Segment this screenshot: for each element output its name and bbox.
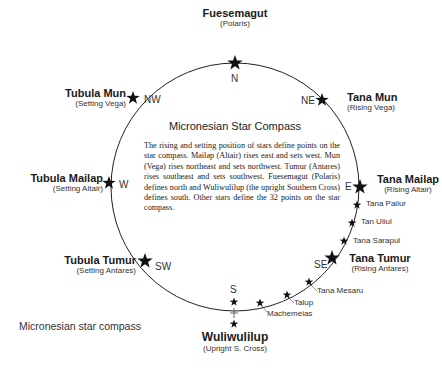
label-north: Fuesemagut (Polaris) [185, 7, 285, 28]
label-southeast: Tana Tumur (Rising Antares) [338, 252, 422, 273]
label-northwest: Tubula Mun (Setting Vega) [40, 87, 126, 108]
label-tan-uliul: Tan Uliul [361, 217, 392, 226]
star-icon-west [102, 176, 115, 189]
diagram-description: The rising and setting position of stars… [144, 141, 340, 214]
star-name-northeast: Tana Mun [347, 91, 398, 103]
direction-w: W [119, 179, 128, 190]
star-icon-northwest [126, 91, 139, 104]
direction-nw: NW [144, 94, 161, 105]
star-icon-talup [283, 291, 292, 299]
star-icon-north [227, 55, 242, 70]
star-sub-southeast: (Rising Antares) [338, 264, 422, 273]
label-southwest: Tubula Tumur (Setting Antares) [48, 254, 136, 275]
direction-sw: SW [155, 261, 171, 272]
label-tana-mesaru: Tana Mesaru [317, 286, 363, 295]
label-east: Tana Mailap (Rising Altair) [368, 173, 442, 194]
direction-se: SE [314, 259, 327, 270]
star-sub-east: (Rising Altair) [368, 185, 442, 194]
label-machemeias: Machemeias [267, 309, 312, 318]
star-icon-machemeias [256, 299, 265, 307]
star-sub-west: (Setting Altair) [20, 184, 103, 193]
star-sub-northeast: (Rising Vega) [347, 103, 398, 112]
diagram-title: Micronesian Star Compass [160, 120, 310, 132]
direction-e: E [345, 181, 352, 192]
star-name-north: Fuesemagut [185, 7, 285, 19]
star-name-southeast: Tana Tumur [338, 252, 422, 264]
direction-ne: NE [301, 95, 315, 106]
label-west: Tubula Mailap (Setting Altair) [20, 172, 103, 193]
direction-n: N [231, 73, 238, 84]
star-sub-northwest: (Setting Vega) [40, 99, 126, 108]
figure-caption: Micronesian star compass [19, 320, 141, 332]
star-sub-south: (Upright S. Cross) [183, 344, 287, 353]
star-name-west: Tubula Mailap [20, 172, 103, 184]
star-name-southwest: Tubula Tumur [48, 254, 136, 266]
label-talup: Talup [294, 298, 313, 307]
star-icon-south-upper [230, 298, 239, 306]
label-south: Wuliwulilup (Upright S. Cross) [183, 330, 287, 353]
star-name-east: Tana Mailap [368, 173, 442, 185]
star-sub-southwest: (Setting Antares) [48, 266, 136, 275]
direction-s: S [230, 284, 237, 295]
label-tana-sarapul: Tana Sarapul [353, 236, 400, 245]
star-name-south: Wuliwulilup [183, 330, 287, 344]
star-icon-south-lower [230, 320, 239, 328]
label-northeast: Tana Mun (Rising Vega) [347, 91, 398, 112]
star-icon-southwest [137, 253, 152, 268]
star-icon-east [352, 179, 367, 194]
label-tana-paiiur: Tana Paiiur [366, 199, 406, 208]
star-sub-north: (Polaris) [185, 19, 285, 28]
star-name-northwest: Tubula Mun [40, 87, 126, 99]
